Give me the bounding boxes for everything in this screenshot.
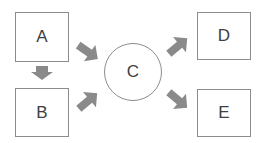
arrow-b-to-c-icon [72,86,103,117]
node-a-label: A [36,27,47,47]
node-e: E [197,89,251,137]
node-d-label: D [218,26,230,46]
arrow-a-to-c-icon [72,37,103,67]
node-c-label: C [127,62,139,82]
node-d: D [197,12,251,60]
arrow-a-to-b-icon [31,66,53,80]
node-c: C [104,43,162,101]
node-b-label: B [36,103,47,123]
node-b: B [15,88,69,137]
arrow-c-to-d-icon [162,31,193,62]
node-e-label: E [218,103,229,123]
node-a: A [15,12,69,62]
arrow-c-to-e-icon [162,85,193,116]
